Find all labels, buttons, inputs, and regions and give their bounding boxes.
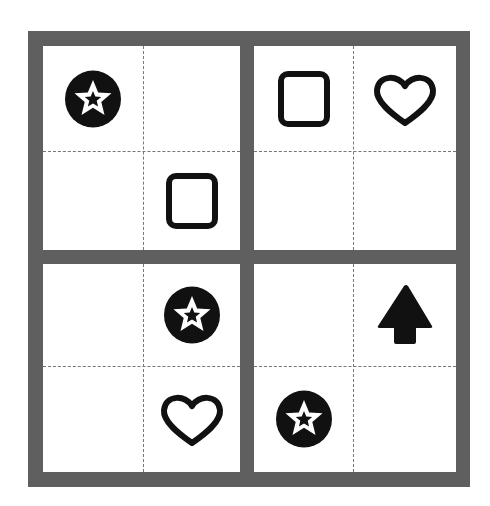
- star-circle-icon: [275, 390, 333, 448]
- star-circle-icon: [163, 286, 221, 344]
- square-icon: [165, 172, 219, 230]
- heart-icon: [159, 390, 225, 448]
- puzzle-board: [28, 31, 470, 487]
- quadrant-bottom-left: [43, 264, 240, 472]
- cell-r2-c2[interactable]: [254, 264, 353, 366]
- cell-r1-c0[interactable]: [43, 151, 143, 250]
- square-icon: [277, 70, 331, 128]
- cell-r0-c0[interactable]: [43, 46, 143, 151]
- cell-r1-c2[interactable]: [254, 151, 353, 250]
- quadrant-top-right: [254, 46, 456, 250]
- arrow-up-icon: [377, 285, 433, 345]
- cell-r2-c1[interactable]: [143, 264, 240, 366]
- cell-r0-c3[interactable]: [353, 46, 456, 151]
- cell-r0-c2[interactable]: [254, 46, 353, 151]
- heart-icon: [372, 70, 438, 128]
- cell-r3-c0[interactable]: [43, 366, 143, 472]
- quadrant-bottom-right: [254, 264, 456, 472]
- quadrant-top-left: [43, 46, 240, 250]
- cell-r3-c2[interactable]: [254, 366, 353, 472]
- cell-r2-c3[interactable]: [353, 264, 456, 366]
- cell-r2-c0[interactable]: [43, 264, 143, 366]
- cell-r0-c1[interactable]: [143, 46, 240, 151]
- cell-r1-c3[interactable]: [353, 151, 456, 250]
- cell-r3-c1[interactable]: [143, 366, 240, 472]
- cell-r1-c1[interactable]: [143, 151, 240, 250]
- cell-r3-c3[interactable]: [353, 366, 456, 472]
- star-circle-icon: [64, 70, 122, 128]
